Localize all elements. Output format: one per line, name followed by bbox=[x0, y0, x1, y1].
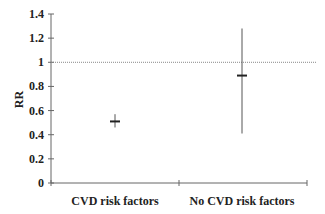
x-category-no-cvd-risk-factors: No CVD risk factors bbox=[172, 194, 312, 209]
y-axis-label: RR bbox=[12, 85, 27, 115]
rr-error-bar-chart: 00.20.40.60.811.21.4 RR CVD risk factors… bbox=[0, 0, 325, 214]
y-tick-label: 0.2 bbox=[14, 153, 44, 165]
y-tick-label: 1.4 bbox=[14, 8, 44, 20]
y-tick-label: 0.4 bbox=[14, 129, 44, 141]
plot-area bbox=[0, 0, 325, 214]
y-tick-label: 0 bbox=[14, 177, 44, 189]
y-tick-label: 1 bbox=[14, 56, 44, 68]
x-category-cvd-risk-factors: CVD risk factors bbox=[45, 194, 185, 209]
y-tick-label: 1.2 bbox=[14, 32, 44, 44]
